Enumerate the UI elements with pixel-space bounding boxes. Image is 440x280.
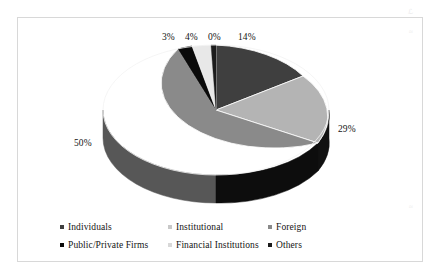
legend-label: Individuals: [68, 222, 112, 232]
slice-label-institutional: 29%: [338, 124, 356, 134]
slice-label-financial-institutions: 4%: [185, 32, 198, 42]
legend-label: Public/Private Firms: [68, 240, 148, 250]
slice-label-others: 0%: [208, 32, 221, 42]
legend-row: Individuals Institutional Foreign: [60, 218, 370, 236]
legend-item-foreign[interactable]: Foreign: [268, 222, 306, 232]
legend-item-others[interactable]: Others: [268, 240, 302, 250]
legend-item-financial-institutions[interactable]: Financial Institutions: [168, 240, 268, 250]
legend-item-institutional[interactable]: Institutional: [168, 222, 268, 232]
legend-row: Public/Private Firms Financial Instituti…: [60, 236, 370, 254]
legend-swatch-icon: [60, 243, 64, 247]
legend-item-individuals[interactable]: Individuals: [60, 222, 168, 232]
legend-swatch-icon: [168, 243, 172, 247]
slice-label-foreign: 50%: [74, 138, 92, 148]
legend-label: Foreign: [276, 222, 306, 232]
pie-chart-figure: ℒ ≈ ≈: [0, 0, 440, 280]
legend-swatch-icon: [268, 243, 272, 247]
slice-label-individuals: 14%: [238, 32, 256, 42]
legend-swatch-icon: [268, 225, 272, 229]
legend-label: Financial Institutions: [176, 240, 259, 250]
legend-label: Institutional: [176, 222, 223, 232]
slice-label-public-private-firms: 3%: [162, 32, 175, 42]
legend-label: Others: [276, 240, 302, 250]
legend-swatch-icon: [168, 225, 172, 229]
legend-item-public-private-firms[interactable]: Public/Private Firms: [60, 240, 168, 250]
chart-legend: Individuals Institutional Foreign Public…: [60, 218, 370, 254]
legend-swatch-icon: [60, 225, 64, 229]
